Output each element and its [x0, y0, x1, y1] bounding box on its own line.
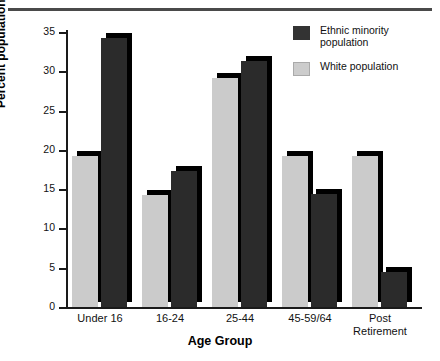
y-tick-label-0: 0 — [29, 300, 55, 312]
x-category-label: 16-24 — [130, 312, 210, 325]
bar-face — [171, 171, 197, 307]
x-category-label: 45-59/64 — [270, 312, 350, 325]
chart-figure: Ethnic minority population White populat… — [0, 0, 440, 361]
bar-group — [352, 32, 422, 307]
bar-group — [212, 32, 282, 307]
x-category-label: 25-44 — [200, 312, 280, 325]
bar-ethnic-minority-population — [101, 38, 127, 307]
y-tick-35: 35 — [59, 32, 66, 34]
header-divider — [8, 8, 432, 11]
bar-face — [241, 61, 267, 307]
bar-face — [381, 272, 407, 307]
x-category-label: Post Retirement — [340, 312, 420, 337]
bar-white-population — [282, 156, 308, 307]
bar-ethnic-minority-population — [311, 194, 337, 307]
bar-face — [212, 78, 238, 307]
bar-face — [352, 156, 378, 307]
bar-group — [142, 32, 212, 307]
y-tick-label-25: 25 — [29, 104, 55, 116]
bar-ethnic-minority-population — [171, 171, 197, 307]
y-tick-label-35: 35 — [29, 25, 55, 37]
y-tick-label-20: 20 — [29, 143, 55, 155]
bar-face — [72, 156, 98, 307]
bar-face — [142, 195, 168, 307]
bar-group — [72, 32, 142, 307]
bar-white-population — [352, 156, 378, 307]
y-tick-30: 30 — [59, 71, 66, 73]
bar-face — [311, 194, 337, 307]
x-axis-line — [66, 307, 422, 309]
bar-face — [282, 156, 308, 307]
y-tick-label-5: 5 — [29, 261, 55, 273]
y-axis-title: Percent population — [0, 0, 8, 108]
y-tick-5: 5 — [59, 268, 66, 270]
bar-ethnic-minority-population — [241, 61, 267, 307]
y-tick-10: 10 — [59, 228, 66, 230]
y-tick-25: 25 — [59, 111, 66, 113]
bar-group — [282, 32, 352, 307]
bar-face — [101, 38, 127, 307]
bar-white-population — [142, 195, 168, 307]
y-tick-label-30: 30 — [29, 64, 55, 76]
bar-white-population — [212, 78, 238, 307]
y-tick-label-10: 10 — [29, 221, 55, 233]
x-category-label: Under 16 — [60, 312, 140, 325]
bar-white-population — [72, 156, 98, 307]
plot-area — [66, 32, 422, 307]
y-tick-label-15: 15 — [29, 182, 55, 194]
y-tick-20: 20 — [59, 150, 66, 152]
y-tick-15: 15 — [59, 189, 66, 191]
bar-ethnic-minority-population — [381, 272, 407, 307]
y-tick-0: 0 — [59, 307, 66, 309]
